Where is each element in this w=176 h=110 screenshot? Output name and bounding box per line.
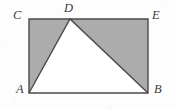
vertex-label-a: A [16,83,24,96]
vertex-label-c: C [13,9,21,22]
vertex-label-b: B [154,83,162,96]
geometry-figure: C D E A B [0,0,176,110]
geometry-diagram-svg [0,0,176,110]
vertex-label-d: D [64,2,73,15]
vertex-label-e: E [152,9,160,22]
